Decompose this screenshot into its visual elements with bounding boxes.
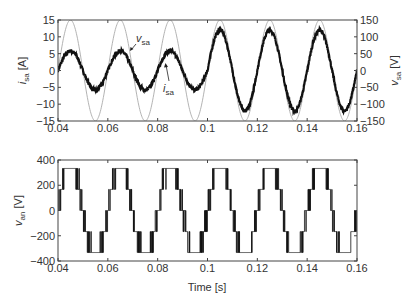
y-tick-label: 5 bbox=[49, 48, 55, 60]
y-right-axis-label: vsa [V] bbox=[388, 55, 403, 85]
y-right-tick-label: 50 bbox=[360, 48, 372, 60]
annotation-i-sa: isa bbox=[163, 82, 174, 97]
top-plot: 0.040.060.080.10.120.140.16151050−5−10−1… bbox=[16, 14, 403, 134]
y-tick-label: −15 bbox=[36, 115, 55, 127]
y-right-tick-label: 0 bbox=[360, 65, 366, 77]
y-tick-label: 10 bbox=[43, 31, 55, 43]
x-tick-label: 0.1 bbox=[200, 122, 215, 134]
x-axis-label: Time [s] bbox=[188, 281, 227, 293]
x-tick-label: 0.14 bbox=[296, 262, 317, 274]
x-tick-label: 0.12 bbox=[247, 262, 268, 274]
y-tick-label: 0 bbox=[49, 65, 55, 77]
y-tick-label: 15 bbox=[43, 14, 55, 26]
y-tick-label: 400 bbox=[37, 154, 55, 166]
y-tick-label: −5 bbox=[42, 81, 55, 93]
x-tick-label: 0.1 bbox=[200, 262, 215, 274]
x-tick-label: 0.06 bbox=[97, 122, 118, 134]
x-tick-label: 0.06 bbox=[97, 262, 118, 274]
y-right-tick-label: −150 bbox=[360, 115, 385, 127]
y-right-tick-label: 100 bbox=[360, 31, 378, 43]
x-tick-label: 0.16 bbox=[346, 262, 367, 274]
y-right-tick-label: −100 bbox=[360, 98, 385, 110]
series-v-an bbox=[58, 168, 357, 252]
y-tick-label: 200 bbox=[37, 179, 55, 191]
y-tick-label: 0 bbox=[49, 205, 55, 217]
y-tick-label: −10 bbox=[36, 98, 55, 110]
figure: 0.040.060.080.10.120.140.16151050−5−10−1… bbox=[0, 0, 418, 308]
y-tick-label: −400 bbox=[30, 255, 55, 267]
y-right-tick-label: −50 bbox=[360, 81, 379, 93]
bottom-plot: 0.040.060.080.10.120.140.164002000−200−4… bbox=[12, 154, 368, 293]
x-tick-label: 0.12 bbox=[247, 122, 268, 134]
y-axis-label: van [V] bbox=[12, 195, 27, 226]
annotation-v-sa: vsa bbox=[136, 32, 151, 47]
x-tick-label: 0.08 bbox=[147, 262, 168, 274]
y-axis-label: isa [A] bbox=[16, 57, 31, 84]
y-tick-label: −200 bbox=[30, 230, 55, 242]
y-right-tick-label: 150 bbox=[360, 14, 378, 26]
x-tick-label: 0.08 bbox=[147, 122, 168, 134]
x-tick-label: 0.14 bbox=[296, 122, 317, 134]
